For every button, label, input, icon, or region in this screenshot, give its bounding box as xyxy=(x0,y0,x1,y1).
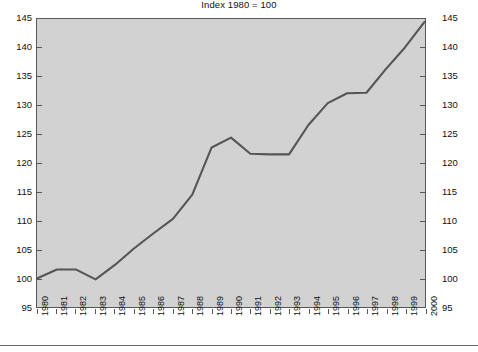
x-tick-mark-1995 xyxy=(328,309,329,314)
y-tick-label-left-105: 105 xyxy=(6,245,32,255)
x-tick-mark-1985 xyxy=(134,309,135,314)
x-tick-mark-1983 xyxy=(95,309,96,314)
y-tick-label-right-145: 145 xyxy=(442,13,468,23)
y-tick-mark-right-130 xyxy=(420,105,425,106)
plot-inner xyxy=(37,19,425,307)
x-tick-mark-1991 xyxy=(250,309,251,314)
y-tick-mark-left-140 xyxy=(37,47,42,48)
y-tick-mark-right-135 xyxy=(420,76,425,77)
x-tick-label-1983: 1983 xyxy=(99,296,108,316)
x-tick-mark-1987 xyxy=(173,309,174,314)
x-tick-label-1997: 1997 xyxy=(371,296,380,316)
y-tick-label-right-95: 95 xyxy=(442,303,468,313)
x-tick-mark-1997 xyxy=(367,309,368,314)
y-tick-mark-right-100 xyxy=(420,279,425,280)
index-line-chart: Index 1980 = 100 14514013513012512011511… xyxy=(0,0,478,352)
series-line-index xyxy=(37,19,425,307)
plot-area xyxy=(36,18,426,308)
y-tick-mark-left-110 xyxy=(37,221,42,222)
x-tick-label-1999: 1999 xyxy=(410,296,419,316)
x-tick-mark-1981 xyxy=(56,309,57,314)
x-tick-mark-1989 xyxy=(212,309,213,314)
y-tick-mark-left-135 xyxy=(37,76,42,77)
y-tick-label-right-140: 140 xyxy=(442,42,468,52)
y-tick-label-left-115: 115 xyxy=(6,187,32,197)
y-tick-mark-right-125 xyxy=(420,134,425,135)
y-tick-label-left-140: 140 xyxy=(6,42,32,52)
x-tick-label-2000: 2000 xyxy=(430,296,439,316)
y-tick-label-left-100: 100 xyxy=(6,274,32,284)
y-tick-label-right-120: 120 xyxy=(442,158,468,168)
y-tick-mark-left-100 xyxy=(37,279,42,280)
y-tick-mark-left-115 xyxy=(37,192,42,193)
y-tick-mark-right-140 xyxy=(420,47,425,48)
x-tick-mark-2000 xyxy=(426,309,427,314)
y-tick-label-left-125: 125 xyxy=(6,129,32,139)
x-tick-label-1998: 1998 xyxy=(391,296,400,316)
y-tick-label-left-130: 130 xyxy=(6,100,32,110)
x-tick-label-1993: 1993 xyxy=(293,296,302,316)
x-tick-label-1981: 1981 xyxy=(60,296,69,316)
x-tick-mark-1996 xyxy=(348,309,349,314)
y-tick-mark-right-105 xyxy=(420,250,425,251)
x-tick-label-1990: 1990 xyxy=(235,296,244,316)
x-tick-mark-1984 xyxy=(114,309,115,314)
x-tick-label-1992: 1992 xyxy=(274,296,283,316)
x-tick-label-1996: 1996 xyxy=(352,296,361,316)
x-tick-label-1980: 1980 xyxy=(41,296,50,316)
y-tick-mark-right-115 xyxy=(420,192,425,193)
x-tick-label-1988: 1988 xyxy=(196,296,205,316)
x-tick-label-1991: 1991 xyxy=(254,296,263,316)
x-tick-label-1995: 1995 xyxy=(332,296,341,316)
x-tick-label-1985: 1985 xyxy=(138,296,147,316)
y-tick-label-left-110: 110 xyxy=(6,216,32,226)
y-tick-mark-left-105 xyxy=(37,250,42,251)
y-tick-label-right-125: 125 xyxy=(442,129,468,139)
y-tick-label-left-135: 135 xyxy=(6,71,32,81)
y-tick-label-right-110: 110 xyxy=(442,216,468,226)
x-tick-label-1987: 1987 xyxy=(177,296,186,316)
x-tick-label-1989: 1989 xyxy=(216,296,225,316)
chart-subtitle: Index 1980 = 100 xyxy=(0,0,478,10)
y-tick-label-left-120: 120 xyxy=(6,158,32,168)
y-tick-label-right-100: 100 xyxy=(442,274,468,284)
y-tick-mark-left-120 xyxy=(37,163,42,164)
x-tick-label-1994: 1994 xyxy=(313,296,322,316)
footer-rule xyxy=(0,345,478,346)
x-tick-mark-1998 xyxy=(387,309,388,314)
x-tick-mark-1982 xyxy=(75,309,76,314)
y-tick-label-right-135: 135 xyxy=(442,71,468,81)
x-tick-label-1984: 1984 xyxy=(118,296,127,316)
y-tick-mark-right-120 xyxy=(420,163,425,164)
x-tick-label-1982: 1982 xyxy=(79,296,88,316)
x-tick-label-1986: 1986 xyxy=(157,296,166,316)
y-tick-mark-right-110 xyxy=(420,221,425,222)
x-tick-mark-1992 xyxy=(270,309,271,314)
x-tick-mark-1999 xyxy=(406,309,407,314)
x-tick-mark-1990 xyxy=(231,309,232,314)
y-tick-label-left-145: 145 xyxy=(6,13,32,23)
y-tick-label-right-115: 115 xyxy=(442,187,468,197)
x-tick-mark-1988 xyxy=(192,309,193,314)
x-tick-mark-1993 xyxy=(289,309,290,314)
y-tick-mark-left-130 xyxy=(37,105,42,106)
x-tick-mark-1986 xyxy=(153,309,154,314)
x-tick-mark-1980 xyxy=(37,309,38,314)
y-tick-label-right-130: 130 xyxy=(442,100,468,110)
y-tick-label-right-105: 105 xyxy=(442,245,468,255)
y-tick-label-left-95: 95 xyxy=(6,303,32,313)
y-tick-mark-left-125 xyxy=(37,134,42,135)
x-tick-mark-1994 xyxy=(309,309,310,314)
